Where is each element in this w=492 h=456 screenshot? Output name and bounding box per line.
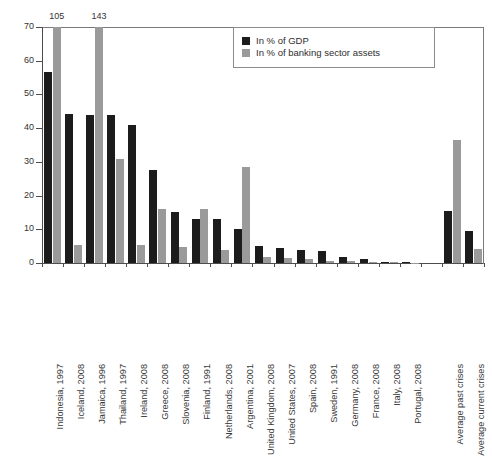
x-axis-category-label: Greece, 2008 [161, 364, 170, 420]
x-axis-category-label: Indonesia, 1997 [56, 364, 65, 429]
y-axis-tick [36, 229, 42, 230]
bar-banking-assets [390, 262, 398, 263]
bar-banking-assets [179, 247, 187, 263]
bar-gdp [65, 114, 73, 263]
x-axis-category-label: Slovenia, 2008 [182, 364, 191, 425]
y-axis-tick-label: 0 [8, 258, 34, 267]
y-axis-tick-label: 60 [8, 56, 34, 65]
x-axis-category-label: Spain, 2008 [309, 364, 318, 413]
x-axis-category-label: Ireland, 2008 [140, 364, 149, 418]
square-black-swatch-icon [242, 37, 250, 45]
x-axis-category-label: Italy, 2008 [393, 364, 402, 406]
x-axis-tick [295, 263, 296, 267]
x-axis-tick [274, 263, 275, 267]
y-axis-tick-label: 50 [8, 89, 34, 98]
bar-gdp [171, 212, 179, 263]
bar-gdp [255, 246, 263, 263]
clipped-bar-value-label: 143 [84, 12, 114, 21]
legend-label-banking-assets: In % of banking sector assets [256, 48, 380, 58]
y-axis-tick-label: 40 [8, 123, 34, 132]
y-axis-tick [36, 263, 42, 264]
x-axis-tick [210, 263, 211, 267]
bar-banking-assets [74, 245, 82, 263]
y-axis-tick [36, 94, 42, 95]
bar-gdp [318, 251, 326, 263]
bar-gdp [213, 219, 221, 263]
bar-banking-assets [474, 249, 482, 263]
x-axis-category-label: Argentina, 2001 [246, 364, 255, 429]
x-axis-tick [463, 263, 464, 267]
x-axis-tick [421, 263, 422, 267]
bar-banking-assets [95, 27, 103, 263]
legend-item-gdp: In % of GDP [242, 36, 426, 46]
y-axis-tick [36, 162, 42, 163]
bar-banking-assets [53, 27, 61, 263]
x-axis-category-label: Thailand, 1997 [119, 364, 128, 425]
y-axis-tick-label: 70 [8, 22, 34, 31]
bar-banking-assets [200, 209, 208, 263]
x-axis-category-label: Netherlands, 2008 [225, 364, 234, 439]
bar-gdp [44, 72, 52, 263]
bar-banking-assets [158, 209, 166, 263]
x-axis-tick [168, 263, 169, 267]
x-axis-tick [84, 263, 85, 267]
bar-banking-assets [137, 245, 145, 263]
x-axis-category-label: Iceland, 2008 [77, 364, 86, 419]
y-axis-tick [36, 61, 42, 62]
x-axis-tick [189, 263, 190, 267]
bar-gdp [128, 125, 136, 263]
bar-banking-assets [116, 159, 124, 264]
x-axis-tick [63, 263, 64, 267]
bar-banking-assets [221, 250, 229, 263]
x-axis-category-label: Average past crises [456, 364, 465, 445]
bar-gdp [402, 262, 410, 263]
x-axis-tick [316, 263, 317, 267]
x-axis-category-label: Average current crises [477, 364, 486, 456]
bar-banking-assets [347, 261, 355, 263]
bar-gdp [86, 115, 94, 263]
x-axis-tick [42, 263, 43, 267]
bar-gdp [444, 211, 452, 263]
bar-banking-assets [284, 258, 292, 263]
y-axis-tick-label: 30 [8, 157, 34, 166]
bar-gdp [149, 170, 157, 263]
y-axis-tick [36, 27, 42, 28]
x-axis-tick [231, 263, 232, 267]
bar-gdp [192, 219, 200, 263]
y-axis-tick [36, 128, 42, 129]
bar-banking-assets [305, 259, 313, 263]
bar-gdp [339, 257, 347, 263]
x-axis-tick [126, 263, 127, 267]
x-axis-tick [358, 263, 359, 267]
bar-gdp [381, 262, 389, 263]
x-axis-tick [147, 263, 148, 267]
bar-banking-assets [242, 167, 250, 263]
chart-legend: In % of GDP In % of banking sector asset… [233, 27, 435, 68]
bar-gdp [297, 250, 305, 263]
x-axis-category-label: Jamaica, 1996 [98, 364, 107, 424]
y-axis-tick-label: 10 [8, 224, 34, 233]
x-axis-tick [337, 263, 338, 267]
x-axis-category-label: United States, 2007 [288, 364, 297, 445]
bar-gdp [276, 248, 284, 264]
bar-gdp [234, 229, 242, 263]
bar-gdp [360, 259, 368, 263]
x-axis-category-label: Germany, 2008 [351, 364, 360, 427]
x-axis-category-label: Portugal, 2008 [414, 364, 423, 424]
legend-item-banking-assets: In % of banking sector assets [242, 48, 426, 58]
y-axis-tick [36, 196, 42, 197]
x-axis-tick [400, 263, 401, 267]
bar-gdp [107, 115, 115, 263]
bar-banking-assets [326, 261, 334, 263]
x-axis-line [42, 263, 484, 264]
x-axis-category-label: France, 2008 [372, 364, 381, 418]
x-axis-category-label: United Kingdom, 2008 [267, 364, 276, 455]
x-axis-tick [484, 263, 485, 267]
x-axis-category-label: Sweden, 1991 [330, 364, 339, 423]
bar-gdp [465, 231, 473, 263]
x-axis-tick [442, 263, 443, 267]
bar-banking-assets [369, 262, 377, 263]
x-axis-category-label: Finland, 1991 [203, 364, 212, 420]
x-axis-tick [252, 263, 253, 267]
